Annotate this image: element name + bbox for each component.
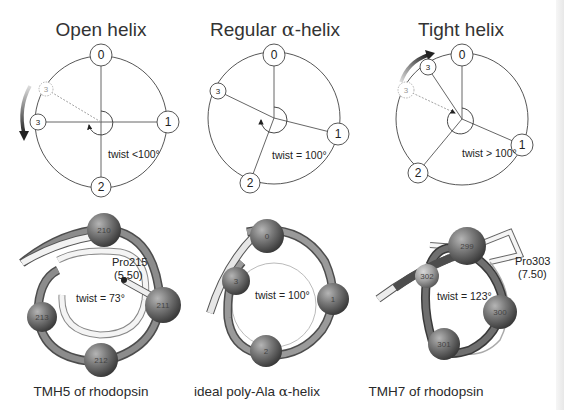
svg-text:3: 3 [44, 85, 49, 94]
open-helix-panel: Open helix 3 0 1 2 3 twist <100° [19, 19, 179, 197]
wheel-node-0: 0 [263, 44, 285, 66]
model-twist-label: twist = 123° [437, 290, 492, 302]
spoke-2 [418, 119, 462, 172]
pro-annotation-index: (5.50) [114, 269, 143, 281]
svg-text:213: 213 [35, 313, 49, 322]
svg-text:212: 212 [94, 356, 108, 365]
svg-text:211: 211 [157, 301, 170, 310]
wheel-node-1: 1 [327, 123, 349, 145]
twist-label: twist > 100° [462, 147, 517, 159]
wheel-node-0: 0 [451, 44, 473, 66]
residue-sphere-301: 301 [428, 328, 460, 360]
tmh7-model: 299 300 301 302 Pro303 (7.50) twist = 12… [378, 227, 550, 360]
wheel-node-ghost: 3 [398, 82, 414, 98]
rotation-arrowhead-icon [425, 50, 435, 60]
residue-sphere-212: 212 [84, 343, 118, 377]
tmh5-caption: TMH5 of rhodopsin [34, 384, 149, 399]
wheel-node-2: 2 [240, 173, 260, 193]
rotation-arrow-icon [22, 86, 30, 134]
spoke-3 [218, 91, 274, 118]
residue-sphere-299: 299 [448, 227, 486, 265]
spoke-2 [250, 118, 274, 182]
wheel-node-3: 3 [210, 83, 226, 99]
poly-ala-model: 0 1 2 3 twist = 100° [210, 219, 349, 367]
residue-sphere-0: 0 [250, 219, 284, 253]
svg-text:2: 2 [247, 176, 254, 190]
svg-text:2: 2 [98, 180, 105, 194]
regular-helix-panel: Regular α-helix 0 1 2 3 twist = 100° [208, 18, 349, 193]
svg-text:3: 3 [36, 118, 41, 127]
svg-text:0: 0 [98, 48, 105, 62]
tight-helix-title: Tight helix [418, 19, 504, 40]
svg-text:302: 302 [420, 272, 434, 281]
spoke-3 [428, 68, 462, 119]
svg-text:301: 301 [437, 340, 451, 349]
residue-sphere-2: 2 [250, 335, 282, 367]
model-twist-label: twist = 100° [255, 289, 310, 301]
svg-text:0: 0 [459, 48, 466, 62]
tight-helix-panel: Tight helix 3 0 1 2 3 twist > 100° [396, 19, 533, 185]
residue-sphere-3: 3 [222, 267, 250, 295]
svg-text:2: 2 [264, 347, 269, 356]
wheel-node-ghost: 3 [39, 82, 53, 96]
svg-text:0: 0 [265, 232, 270, 241]
model-twist-label: twist = 73° [76, 292, 125, 304]
svg-text:299: 299 [460, 242, 474, 251]
regular-helix-title: Regular α-helix [210, 18, 341, 40]
residue-sphere-211: 211 [145, 287, 181, 323]
residue-sphere-210: 210 [87, 213, 121, 247]
svg-text:0: 0 [271, 48, 278, 62]
svg-text:3: 3 [234, 277, 239, 286]
svg-text:1: 1 [519, 138, 526, 152]
svg-text:3: 3 [404, 86, 409, 95]
svg-text:1: 1 [331, 295, 336, 304]
tmh7-caption: TMH7 of rhodopsin [369, 384, 484, 399]
svg-text:1: 1 [165, 115, 172, 129]
open-helix-title: Open helix [56, 19, 147, 40]
tmh5-model: 210 211 212 213 Pro215 (5.50) twist = 73… [22, 213, 181, 377]
wheel-node-3: 3 [420, 59, 436, 75]
pro-annotation-name: Pro303 [515, 255, 550, 267]
residue-sphere-302: 302 [415, 264, 439, 288]
svg-text:3: 3 [216, 87, 221, 96]
pro-annotation-index: (7.50) [518, 268, 547, 280]
svg-text:300: 300 [493, 308, 507, 317]
poly-ala-caption: ideal poly-Ala α-helix [194, 383, 320, 399]
ghost-spoke [46, 89, 101, 122]
wheel-node-3: 3 [30, 114, 46, 130]
residue-sphere-213: 213 [27, 302, 57, 332]
pro-annotation-name: Pro215 [112, 256, 147, 268]
twist-label: twist <100° [108, 148, 160, 160]
wheel-node-2: 2 [408, 163, 428, 183]
svg-text:3: 3 [426, 63, 431, 72]
wheel-node-1: 1 [157, 111, 179, 133]
svg-text:210: 210 [97, 226, 111, 235]
svg-text:2: 2 [415, 166, 422, 180]
wheel-node-2: 2 [91, 177, 111, 197]
rotation-arrowhead-icon [19, 131, 29, 141]
wheel-node-0: 0 [90, 44, 112, 66]
svg-text:1: 1 [335, 127, 342, 141]
helix-twist-figure: Open helix 3 0 1 2 3 twist <100° [0, 0, 564, 410]
twist-label: twist = 100° [272, 149, 327, 161]
residue-sphere-1: 1 [317, 283, 349, 315]
